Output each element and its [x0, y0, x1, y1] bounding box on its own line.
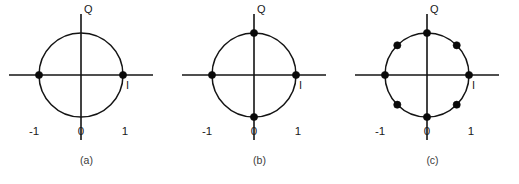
i-axis-label: I	[472, 80, 475, 91]
constellation-point	[453, 42, 460, 49]
panel-b: Q I -1 0 1 (b)	[173, 0, 346, 184]
constellation-point	[208, 71, 215, 78]
constellation-point	[119, 71, 126, 78]
panel-caption: (a)	[0, 155, 173, 166]
i-axis-label: I	[126, 80, 129, 91]
constellation-point	[292, 71, 299, 78]
tick-label-zero: 0	[244, 126, 264, 138]
panel-c: Q I -1 0 1 (c)	[346, 0, 519, 184]
constellation-point	[394, 42, 401, 49]
constellation-point	[381, 71, 388, 78]
panel-caption: (b)	[173, 155, 346, 166]
tick-label-negative-one: -1	[24, 126, 44, 138]
constellation-point	[453, 101, 460, 108]
panel-caption: (c)	[346, 155, 519, 166]
tick-label-positive-one: 1	[115, 126, 135, 138]
tick-label-positive-one: 1	[288, 126, 308, 138]
panel-a: Q I -1 0 1 (a)	[0, 0, 173, 184]
q-axis-label: Q	[257, 4, 266, 15]
constellation-point	[423, 29, 430, 36]
constellation-point	[35, 71, 42, 78]
constellation-point	[394, 101, 401, 108]
constellation-figure: Q I -1 0 1 (a) Q I -1 0 1 (b)	[0, 0, 519, 184]
tick-label-negative-one: -1	[197, 126, 217, 138]
constellation-point	[423, 113, 430, 120]
tick-label-positive-one: 1	[461, 126, 481, 138]
tick-label-zero: 0	[417, 126, 437, 138]
i-axis-label: I	[299, 80, 302, 91]
tick-label-negative-one: -1	[370, 126, 390, 138]
tick-label-zero: 0	[71, 126, 91, 138]
constellation-point	[465, 71, 472, 78]
q-axis-label: Q	[430, 4, 439, 15]
q-axis-label: Q	[84, 4, 93, 15]
constellation-point	[250, 29, 257, 36]
constellation-point	[250, 113, 257, 120]
